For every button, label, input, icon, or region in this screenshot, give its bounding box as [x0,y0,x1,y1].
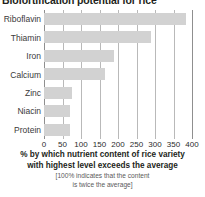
x-tick-300: 300 [148,140,161,149]
gridline-400 [192,10,193,139]
x-axis-note-line2: is twice the average] [0,181,205,190]
x-tick-100: 100 [74,140,87,149]
bar-niacin [44,105,70,117]
category-label-iron: Iron [0,51,41,61]
x-tick-0: 0 [42,140,46,149]
chart-title: Biofortification potential for rice [2,0,203,6]
category-label-thiamin: Thiamin [0,33,41,43]
x-tick-400: 400 [185,140,198,149]
bar-thiamin [44,31,151,43]
plot-area [44,10,192,139]
category-label-niacin: Niacin [0,106,41,116]
x-axis-note-line1: [100% indicates that the content [56,172,150,179]
category-label-protein: Protein [0,125,41,135]
category-label-zinc: Zinc [0,88,41,98]
x-tick-250: 250 [130,140,143,149]
bar-iron [44,50,114,62]
x-axis-note: [100% indicates that the content is twic… [0,172,205,189]
category-label-calcium: Calcium [0,70,41,80]
x-tick-350: 350 [167,140,180,149]
x-tick-50: 50 [58,140,67,149]
bar-calcium [44,68,105,80]
x-axis-label: % by which nutrient content of rice vari… [0,150,205,171]
bar-riboflavin [44,13,186,25]
bar-protein [44,124,70,136]
category-axis-labels: RiboflavinThiaminIronCalciumZincNiacinPr… [0,10,41,139]
x-axis-label-line2: with highest level exceeds the average [0,161,205,172]
x-axis-label-line1: % by which nutrient content of rice vari… [20,150,185,159]
bar-zinc [44,87,72,99]
category-label-riboflavin: Riboflavin [0,14,41,24]
chart-container: Biofortification potential for rice Ribo… [0,0,205,197]
x-tick-200: 200 [111,140,124,149]
bar-series [44,10,192,139]
x-tick-150: 150 [93,140,106,149]
